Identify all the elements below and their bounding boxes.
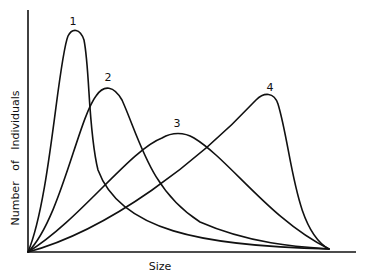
curve-4-label: 4: [267, 81, 274, 94]
size-distribution-chart: 1 2 3 4 Size Number of Individuals: [0, 0, 367, 280]
x-axis-label: Size: [149, 260, 172, 273]
curve-1-label: 1: [70, 15, 77, 28]
y-axis-label: Number of Individuals: [9, 90, 22, 225]
curve-2-label: 2: [105, 71, 112, 84]
curve-3-label: 3: [174, 117, 181, 130]
